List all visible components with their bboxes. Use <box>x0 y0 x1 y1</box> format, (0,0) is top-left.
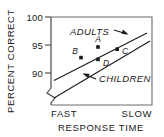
x-axis-title: RESPONSE TIME <box>58 122 144 133</box>
y-axis-ticks <box>45 17 51 73</box>
y-axis-title: PERCENT CORRECT <box>5 9 16 113</box>
adults-arrow-icon <box>114 30 129 35</box>
children-series-label: CHILDREN <box>99 73 151 84</box>
data-point-a-marker <box>96 45 100 49</box>
data-point-b-label: B <box>72 46 78 56</box>
y-tick-label-90: 90 <box>32 68 43 79</box>
y-axis-spine <box>47 17 55 105</box>
data-point-d-label: D <box>103 58 109 68</box>
chart-figure: 100 95 90 PERCENT CORRECT A B C D ADULTS… <box>0 0 164 137</box>
x-axis-label-slow: SLOW <box>122 108 152 119</box>
data-point-c-label: C <box>122 46 129 56</box>
data-point-d-marker <box>96 58 100 62</box>
data-point-c-marker <box>115 47 119 51</box>
adults-series-label: ADULTS <box>69 26 109 37</box>
y-tick-label-100: 100 <box>27 12 43 23</box>
y-axis-break-icon <box>47 88 55 105</box>
x-axis-label-fast: FAST <box>51 108 77 119</box>
children-trend-line <box>54 41 150 98</box>
y-tick-label-95: 95 <box>32 40 43 51</box>
line-chart-svg: 100 95 90 PERCENT CORRECT A B C D ADULTS… <box>0 0 164 137</box>
data-point-b-marker <box>79 56 83 60</box>
